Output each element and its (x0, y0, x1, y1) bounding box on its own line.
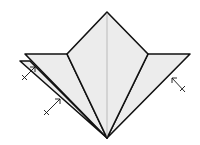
center-kite (67, 12, 148, 138)
fold-arrow-icon (44, 99, 60, 115)
fold-arrow-icon (172, 78, 185, 92)
origami-diagram (0, 0, 200, 145)
